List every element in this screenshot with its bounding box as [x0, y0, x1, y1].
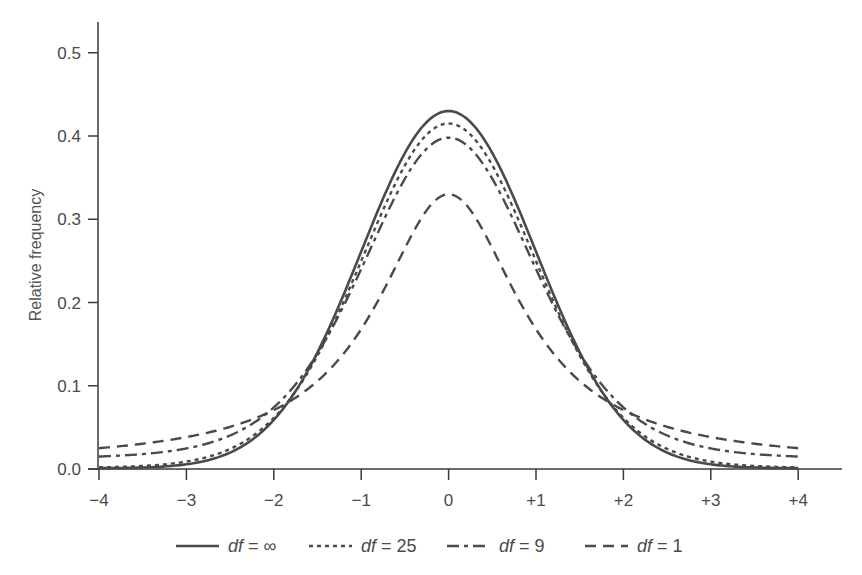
- legend-item: df = ∞: [176, 536, 277, 556]
- axes: [88, 22, 842, 469]
- legend-item: df = 25: [309, 536, 417, 556]
- legend-label: df = ∞: [228, 536, 277, 556]
- x-tick-label: 0: [444, 491, 453, 510]
- curve-solid: [99, 111, 798, 468]
- y-tick-label: 0.1: [57, 377, 81, 396]
- x-tick-label: +3: [701, 491, 720, 510]
- y-tick-label: 0.4: [57, 127, 81, 146]
- x-tick-label: −3: [177, 491, 196, 510]
- legend-item: df = 1: [585, 536, 683, 556]
- y-tick-label: 0.0: [57, 460, 81, 479]
- legend-label: df = 1: [637, 536, 683, 556]
- x-ticks: −4−3−2−10+1+2+3+4: [89, 469, 808, 510]
- x-tick-label: +1: [526, 491, 545, 510]
- x-tick-label: −4: [89, 491, 108, 510]
- curve-dashdot: [99, 138, 798, 457]
- x-tick-label: −1: [352, 491, 371, 510]
- legend-label: df = 25: [361, 536, 417, 556]
- legend: df = ∞df = 25df = 9df = 1: [176, 536, 683, 556]
- curve-dashed: [99, 194, 798, 448]
- t-distribution-chart: 0.00.10.20.30.40.5 −4−3−2−10+1+2+3+4 Rel…: [0, 0, 862, 575]
- x-tick-label: −2: [264, 491, 283, 510]
- x-tick-label: +2: [614, 491, 633, 510]
- y-tick-label: 0.2: [57, 294, 81, 313]
- y-tick-label: 0.3: [57, 210, 81, 229]
- y-axis-title: Relative frequency: [27, 189, 44, 322]
- legend-item: df = 9: [447, 536, 545, 556]
- y-tick-label: 0.5: [57, 44, 81, 63]
- x-tick-label: +4: [789, 491, 808, 510]
- legend-label: df = 9: [499, 536, 545, 556]
- curve-dotted: [99, 124, 798, 468]
- y-ticks: 0.00.10.20.30.40.5: [57, 44, 98, 479]
- curves: [99, 111, 798, 468]
